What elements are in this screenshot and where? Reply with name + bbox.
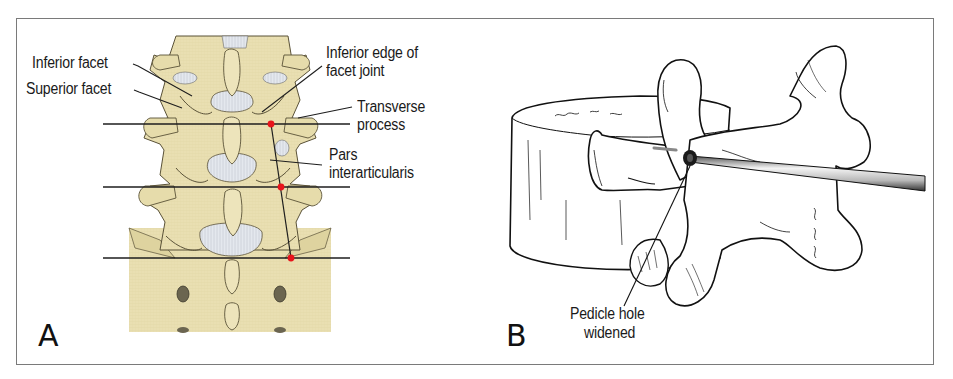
label-transverse-process-2: process	[357, 116, 405, 133]
label-inferior-facet: Inferior facet	[32, 54, 108, 71]
label-pedicle-hole-widened-1: Pedicle hole	[570, 305, 645, 322]
panel-a-spine-illustration	[0, 0, 953, 379]
label-inferior-edge-facet-joint-1: Inferior edge of	[326, 44, 418, 61]
label-superior-facet: Superior facet	[26, 80, 111, 97]
landmark-point-2	[278, 184, 285, 191]
label-pars-interarticularis-2: interarticularis	[329, 164, 414, 181]
label-pedicle-hole-widened-2: widened	[584, 324, 635, 341]
panel-a-letter: A	[38, 318, 59, 353]
landmark-point-1	[268, 121, 275, 128]
label-transverse-process-1: Transverse	[357, 98, 425, 115]
panel-b-letter: B	[506, 318, 527, 353]
label-pars-interarticularis-1: Pars	[329, 146, 357, 163]
label-inferior-edge-facet-joint-2: facet joint	[326, 62, 384, 79]
landmark-point-3	[288, 255, 295, 262]
